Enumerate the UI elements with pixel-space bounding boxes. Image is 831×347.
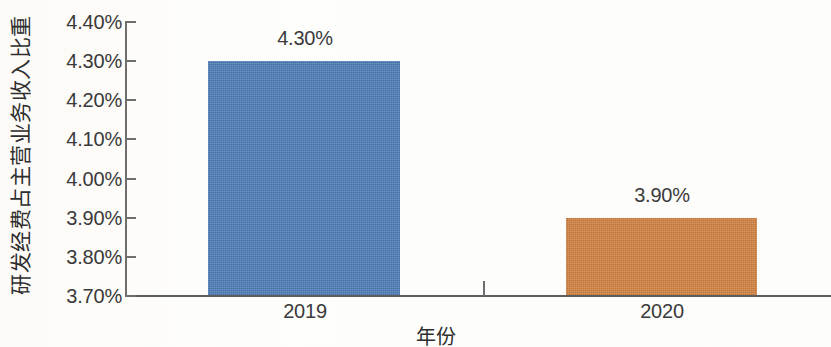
data-label-2019: 4.30% <box>235 27 375 50</box>
x-axis-title: 年份 <box>0 321 831 347</box>
data-label-2020: 3.90% <box>592 184 732 207</box>
y-axis-tick-label: 3.70% <box>4 285 122 308</box>
y-axis-tick-mark <box>125 60 136 62</box>
y-axis-tick-mark <box>125 295 136 297</box>
y-axis-tick-label: 3.80% <box>4 245 122 268</box>
bar-chart-figure: 研发经费占主营业务收入比重 4.40%4.30%4.20%4.10%4.00%3… <box>0 0 831 347</box>
y-axis-tick-label: 3.90% <box>4 206 122 229</box>
y-axis-tick-label: 4.00% <box>4 167 122 190</box>
y-axis-tick-mark <box>125 256 136 258</box>
y-axis-tick-mark <box>125 138 136 140</box>
x-axis-title-label: 年份 <box>416 325 456 347</box>
category-label-2020: 2020 <box>592 300 732 323</box>
x-axis-line <box>125 295 831 297</box>
y-axis-tick-mark <box>125 99 136 101</box>
y-axis-tick-label: 4.10% <box>4 128 122 151</box>
plot-area <box>125 22 831 296</box>
bar-2019[interactable] <box>208 61 400 296</box>
y-axis-tick-labels: 4.40%4.30%4.20%4.10%4.00%3.90%3.80%3.70% <box>0 0 122 347</box>
y-axis-tick-label: 4.30% <box>4 50 122 73</box>
y-axis-tick-mark <box>125 217 136 219</box>
bar-fill <box>566 218 757 296</box>
y-axis-tick-mark <box>125 21 136 23</box>
bar-2020[interactable] <box>566 218 757 296</box>
x-axis-tick-mark <box>483 281 485 296</box>
y-axis-tick-label: 4.40% <box>4 11 122 34</box>
y-axis-tick-mark <box>125 178 136 180</box>
category-label-2019: 2019 <box>235 300 375 323</box>
y-axis-tick-label: 4.20% <box>4 89 122 112</box>
bar-fill <box>208 61 400 296</box>
